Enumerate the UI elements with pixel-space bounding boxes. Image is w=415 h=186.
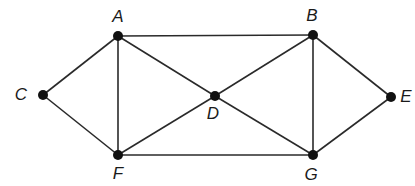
edge-e-g (313, 97, 391, 155)
edge-a-d (118, 36, 215, 96)
edge-b-e (313, 35, 391, 97)
node-a (113, 31, 123, 41)
edge-d-b (215, 35, 313, 96)
edge-c-f (43, 95, 118, 155)
edge-a-b (118, 35, 313, 36)
node-label-c: C (15, 85, 28, 104)
node-d (210, 91, 220, 101)
edge-a-c (43, 36, 118, 95)
edge-f-d (118, 96, 215, 155)
node-label-e: E (400, 87, 412, 106)
node-c (38, 90, 48, 100)
nodes-group (38, 30, 396, 160)
node-f (113, 150, 123, 160)
graph-diagram: ABCDEFG (0, 0, 415, 186)
node-label-f: F (113, 164, 125, 183)
node-g (308, 150, 318, 160)
node-label-b: B (306, 6, 317, 25)
node-label-d: D (207, 104, 219, 123)
edge-d-g (215, 96, 313, 155)
node-b (308, 30, 318, 40)
node-e (386, 92, 396, 102)
node-label-g: G (304, 165, 317, 184)
node-label-a: A (111, 7, 123, 26)
